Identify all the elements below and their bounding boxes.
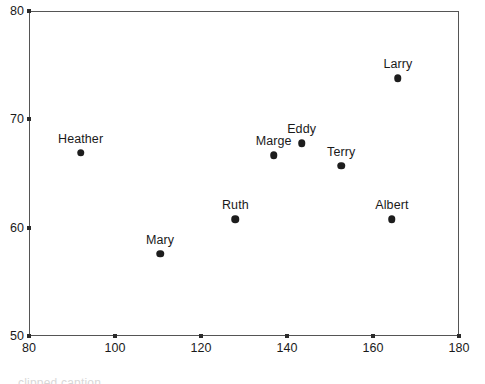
x-tick-mark — [113, 334, 117, 338]
y-tick-mark — [27, 226, 31, 230]
data-point-label: Albert — [375, 199, 408, 212]
data-point-label: Heather — [58, 133, 103, 146]
scatter-chart: 80100120140160180 50607080 HeatherMaryRu… — [0, 0, 485, 384]
y-tick-label: 70 — [10, 113, 24, 126]
data-point-label: Marge — [256, 135, 292, 148]
data-point — [388, 215, 396, 223]
y-tick-mark — [27, 117, 31, 121]
data-point — [394, 74, 402, 82]
data-point — [77, 149, 85, 157]
y-tick-mark — [27, 334, 31, 338]
x-tick-label: 80 — [22, 342, 36, 355]
data-point-label: Mary — [146, 234, 174, 247]
y-tick-mark — [27, 9, 31, 13]
y-tick-label: 80 — [10, 5, 24, 18]
x-tick-mark — [285, 334, 289, 338]
data-point — [337, 162, 345, 170]
y-tick-label: 50 — [10, 330, 24, 343]
x-tick-label: 100 — [104, 342, 125, 355]
x-tick-label: 160 — [362, 342, 383, 355]
x-tick-mark — [457, 334, 461, 338]
y-tick-label: 60 — [10, 221, 24, 234]
data-point-label: Terry — [327, 146, 355, 159]
data-point-label: Eddy — [287, 123, 316, 136]
data-point — [232, 215, 240, 223]
x-tick-mark — [199, 334, 203, 338]
data-point — [156, 250, 164, 258]
x-tick-label: 120 — [190, 342, 211, 355]
data-point — [270, 151, 278, 159]
data-point-label: Ruth — [222, 199, 249, 212]
x-tick-label: 180 — [448, 342, 469, 355]
x-tick-mark — [371, 334, 375, 338]
x-tick-label: 140 — [276, 342, 297, 355]
footer-ghost-caption: clipped caption — [18, 377, 101, 384]
data-point — [298, 139, 306, 147]
data-point-label: Larry — [383, 58, 412, 71]
